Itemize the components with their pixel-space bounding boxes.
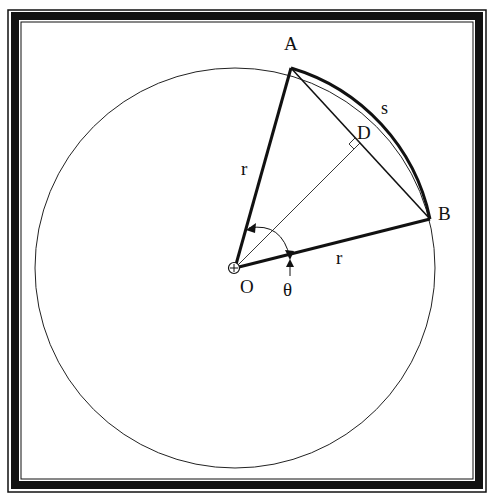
center-marker-icon <box>229 263 240 274</box>
diagram-canvas: A B D s r r O θ <box>0 0 494 496</box>
label-r-ob: r <box>336 247 343 268</box>
label-theta: θ <box>283 279 292 300</box>
label-b: B <box>438 203 451 224</box>
label-s: s <box>381 98 388 118</box>
chord-ab <box>291 68 430 219</box>
label-r-oa: r <box>241 158 248 179</box>
label-o: O <box>240 276 254 297</box>
angle-arc <box>249 227 290 258</box>
frame <box>8 10 486 492</box>
arrowhead-icon <box>286 259 294 267</box>
radius-ob <box>235 219 430 268</box>
label-a: A <box>284 33 298 54</box>
label-d: D <box>357 122 371 143</box>
